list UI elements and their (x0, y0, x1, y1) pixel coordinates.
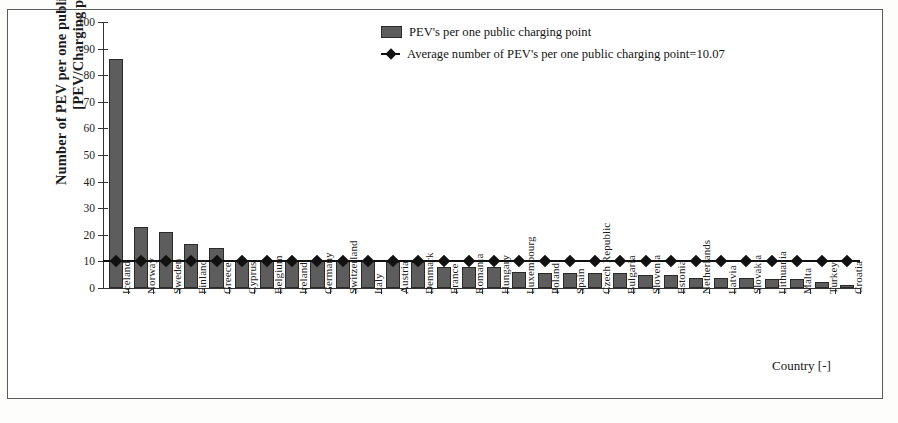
y-tick-label: 10 (84, 255, 96, 267)
y-tick (98, 155, 108, 156)
legend-diamond-line-icon (381, 49, 400, 59)
y-tick-label: 30 (84, 202, 96, 214)
x-axis-label: Ireland (297, 262, 309, 294)
x-axis-label: Iceland (120, 261, 132, 294)
average-marker (791, 255, 804, 268)
x-axis-label: Bulgaria (625, 255, 637, 294)
x-axis-label: Sweden (171, 259, 183, 294)
x-axis-label: Lithuania (776, 251, 788, 294)
y-tick (98, 235, 108, 236)
y-tick-label: 80 (84, 69, 96, 81)
x-axis-label: Slovakia (751, 255, 763, 294)
legend-item-bars: PEV's per one public charging point (381, 21, 725, 43)
y-tick-label: 100 (78, 16, 95, 28)
x-axis-label: Czech Republic (600, 223, 612, 294)
y-tick (98, 102, 108, 103)
y-tick (98, 22, 108, 23)
x-axis-label: Cyprus (246, 262, 258, 294)
x-axis-label: Norway (145, 258, 157, 294)
x-axis-label: Greece (221, 262, 233, 294)
x-axis-label: Malta (801, 268, 813, 294)
x-axis-label: Hungary (499, 255, 511, 294)
y-tick-label: 0 (89, 282, 95, 294)
x-axis-label: Latvia (726, 265, 738, 294)
y-tick-label: 40 (84, 176, 96, 188)
y-tick (98, 128, 108, 129)
x-axis-label: Finland (196, 260, 208, 294)
x-axis-label: Germany (322, 252, 334, 294)
y-tick-label: 90 (84, 43, 96, 55)
y-tick (98, 182, 108, 183)
x-axis-label: Slovenia (650, 255, 662, 294)
y-tick (98, 75, 108, 76)
x-axis-label: Romania (473, 254, 485, 294)
x-axis-label: Switzerland (347, 240, 359, 294)
x-axis-label: Turkey (827, 262, 839, 294)
x-axis-label: Italy (372, 273, 384, 294)
y-tick-label: 20 (84, 229, 96, 241)
legend-bar-swatch-icon (381, 26, 402, 38)
chart-figure: Number of PEV per one public charging po… (0, 0, 898, 423)
x-axis-label: Austria (398, 261, 410, 294)
y-tick (98, 49, 108, 50)
x-axis-title: Country [-] (772, 358, 831, 374)
x-axis-label: Netherlands (700, 240, 712, 294)
legend-item-average: Average number of PEV's per one public c… (381, 43, 725, 65)
y-tick (98, 288, 108, 289)
x-axis-label: Poland (549, 263, 561, 294)
y-tick-label: 70 (84, 96, 96, 108)
y-tick-label: 50 (84, 149, 96, 161)
x-axis-label: Croatia (852, 261, 864, 294)
x-axis-label: Spain (574, 268, 586, 294)
y-tick (98, 208, 108, 209)
x-axis-label: France (448, 263, 460, 294)
y-tick-label: 60 (84, 122, 96, 134)
x-axis-label: Denmark (423, 252, 435, 294)
x-axis-label: Estonia (675, 260, 687, 294)
x-axis-label: Belgium (272, 255, 284, 294)
legend-average-label: Average number of PEV's per one public c… (407, 47, 725, 62)
x-axis-label: Luxembourg (524, 236, 536, 294)
average-marker (563, 255, 576, 268)
chart-legend: PEV's per one public charging point Aver… (381, 21, 725, 65)
legend-bar-label: PEV's per one public charging point (409, 25, 591, 40)
